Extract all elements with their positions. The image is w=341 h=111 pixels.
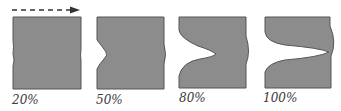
panel-label-20: 20% xyxy=(12,93,39,107)
panel-shape-50 xyxy=(97,17,166,89)
dashed-arrow-icon xyxy=(12,7,80,14)
panel-label-50: 50% xyxy=(96,93,123,107)
panel-shape-100 xyxy=(265,17,334,88)
panel-label-80: 80% xyxy=(179,91,206,105)
panel-shape-80 xyxy=(179,17,249,88)
panel-shape-20 xyxy=(13,17,81,89)
panel-label-100: 100% xyxy=(263,91,297,105)
